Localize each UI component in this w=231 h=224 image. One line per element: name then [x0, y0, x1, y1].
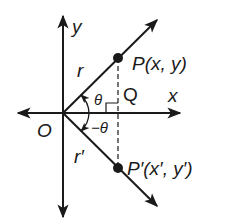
right-angle-marker: [106, 103, 118, 113]
origin-label: O: [37, 120, 52, 141]
y-axis-label: y: [70, 16, 83, 37]
neg-theta-label: −θ: [91, 119, 108, 136]
neg-theta-arc-icon: [81, 113, 89, 131]
theta-label: θ: [94, 91, 102, 108]
segment-r-prime-label: r′: [74, 146, 85, 167]
point-p-prime-label: P′(x′, y′): [127, 158, 193, 179]
x-axis-label: x: [167, 85, 179, 106]
point-q-label: Q: [123, 84, 138, 105]
reflection-diagram: y x O P(x, y) P′(x′, y′) Q r r′ θ −θ: [0, 0, 231, 224]
theta-arc-icon: [81, 95, 89, 113]
point-p: [113, 53, 123, 63]
point-p-prime: [113, 163, 123, 173]
segment-r-label: r: [77, 60, 84, 81]
point-p-label: P(x, y): [132, 53, 187, 74]
